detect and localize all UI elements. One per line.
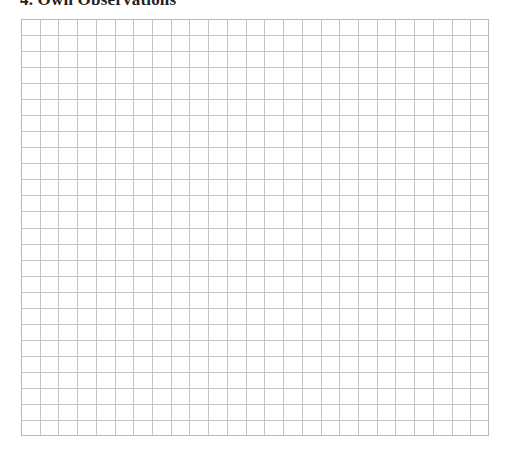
section-title: 4. Own Observations [20, 0, 176, 8]
observation-grid [21, 19, 489, 436]
